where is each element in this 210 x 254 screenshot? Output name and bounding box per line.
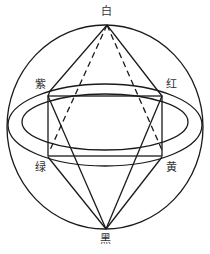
outer-sphere <box>7 25 203 229</box>
color-solid-diagram <box>0 0 210 254</box>
edge-yellow-black <box>106 157 162 229</box>
edge-green-black <box>48 157 106 229</box>
hidden-edge-white-yellow <box>107 25 162 150</box>
hidden-edge-white-green <box>50 25 107 150</box>
upper-solid-edges <box>50 25 158 91</box>
label-purple: 紫 <box>35 79 46 90</box>
label-white: 白 <box>101 6 112 17</box>
edge-purple-black <box>48 96 106 229</box>
edge-red-black <box>106 96 162 229</box>
label-green: 绿 <box>35 162 46 173</box>
inner-equator-ellipse <box>22 94 188 150</box>
label-black: 黑 <box>100 234 111 245</box>
label-red: 红 <box>166 79 177 90</box>
label-yellow: 黄 <box>166 162 177 173</box>
